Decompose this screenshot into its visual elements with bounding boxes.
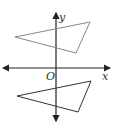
x-axis-label: x bbox=[102, 70, 109, 83]
origin-label: O bbox=[46, 70, 55, 83]
coordinate-diagram: y x O bbox=[0, 0, 113, 125]
lower-triangle bbox=[17, 81, 91, 112]
upper-triangle bbox=[15, 22, 90, 53]
y-axis-label: y bbox=[58, 11, 66, 24]
